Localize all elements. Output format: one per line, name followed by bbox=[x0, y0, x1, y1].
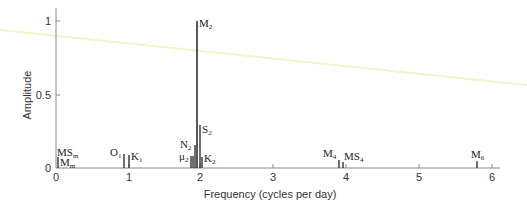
y-axis-label: Amplitude bbox=[21, 71, 33, 120]
svg-text:M4: M4 bbox=[323, 147, 337, 161]
svg-text:4: 4 bbox=[343, 171, 349, 183]
constituent-labels: MSm Mm O1 K1 N2 μ2 M2 S2 K2 M4 MS4 M6 bbox=[57, 17, 485, 170]
x-axis-label: Frequency (cycles per day) bbox=[204, 188, 337, 200]
highlight-line bbox=[0, 30, 527, 85]
svg-text:1: 1 bbox=[126, 171, 132, 183]
svg-text:5: 5 bbox=[416, 171, 422, 183]
svg-text:M6: M6 bbox=[471, 148, 485, 162]
tidal-spectrum-chart: 1 0.5 0 0 1 2 3 4 5 6 Frequency (cycles … bbox=[0, 0, 527, 205]
y-tick-0.5: 0.5 bbox=[36, 89, 51, 101]
svg-text:3: 3 bbox=[270, 171, 276, 183]
y-tick-0: 0 bbox=[45, 162, 51, 174]
svg-text:M2: M2 bbox=[199, 17, 213, 31]
svg-text:O1: O1 bbox=[110, 146, 122, 160]
svg-text:6: 6 bbox=[489, 171, 495, 183]
y-tick-1: 1 bbox=[45, 15, 51, 27]
x-ticks: 0 1 2 3 4 5 6 bbox=[53, 164, 495, 183]
svg-text:K1: K1 bbox=[131, 150, 143, 164]
svg-text:S2: S2 bbox=[202, 123, 212, 137]
svg-text:K2: K2 bbox=[204, 152, 216, 166]
svg-text:MS4: MS4 bbox=[344, 150, 364, 164]
svg-text:0: 0 bbox=[53, 171, 59, 183]
svg-text:2: 2 bbox=[197, 171, 203, 183]
svg-text:μ2: μ2 bbox=[179, 150, 189, 164]
